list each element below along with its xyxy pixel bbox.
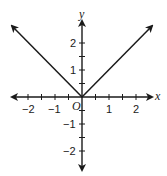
x-tick-label: −2 xyxy=(22,103,35,115)
y-tick-label: −1 xyxy=(63,118,76,130)
x-tick-label: 2 xyxy=(133,103,139,115)
x-axis-label: x xyxy=(154,89,161,103)
origin-label: O xyxy=(72,99,81,113)
right-branch-line xyxy=(82,26,152,97)
x-tick-label: 1 xyxy=(106,103,112,115)
y-tick-label: 1 xyxy=(70,64,76,76)
coordinate-plane: −2 −1 1 2 2 1 −1 −2 O x y xyxy=(0,0,167,176)
x-tick-label: −1 xyxy=(48,103,61,115)
y-tick-label: 2 xyxy=(70,37,76,49)
y-tick-label: −2 xyxy=(63,145,76,157)
y-axis-label: y xyxy=(78,7,85,21)
